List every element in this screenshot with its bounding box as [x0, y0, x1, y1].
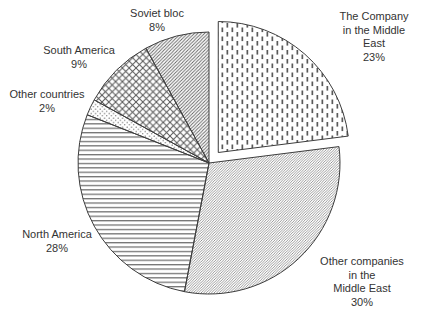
label-other-companies-middle-east: Other companies in the Middle East 30% — [320, 255, 405, 309]
pie-slice-company-middle-east — [218, 22, 348, 153]
pie-slices-group — [78, 22, 348, 295]
label-north-america: North America 28% — [22, 228, 92, 255]
label-south-america: South America 9% — [43, 44, 115, 71]
label-other-countries: Other countries 2% — [9, 88, 84, 115]
pie-chart-figure: Soviet bloc 8% The Company in the Middle… — [0, 0, 447, 309]
label-soviet-bloc: Soviet bloc 8% — [130, 7, 184, 34]
label-company-middle-east: The Company in the Middle East 23% — [338, 10, 411, 64]
